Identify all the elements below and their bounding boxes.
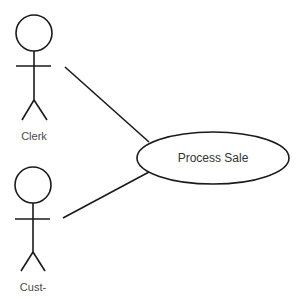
actor-clerk[interactable]: Clerk [16, 15, 52, 142]
actor-head [15, 167, 51, 203]
use-case-diagram: Clerk Cust- Process Sale [0, 0, 301, 308]
actor-right-leg [33, 252, 45, 271]
use-case-label: Process Sale [178, 151, 249, 165]
actor-right-leg [34, 100, 47, 120]
association-line-clerk[interactable] [65, 67, 149, 142]
actor-customer[interactable]: Cust- [15, 167, 51, 293]
actor-left-leg [21, 252, 33, 271]
use-case-process-sale[interactable]: Process Sale [137, 132, 289, 184]
actor-left-leg [22, 100, 34, 120]
actor-label-customer: Cust- [20, 281, 47, 293]
actor-head [16, 15, 52, 51]
association-line-customer[interactable] [63, 172, 149, 218]
actor-label-clerk: Clerk [21, 130, 47, 142]
